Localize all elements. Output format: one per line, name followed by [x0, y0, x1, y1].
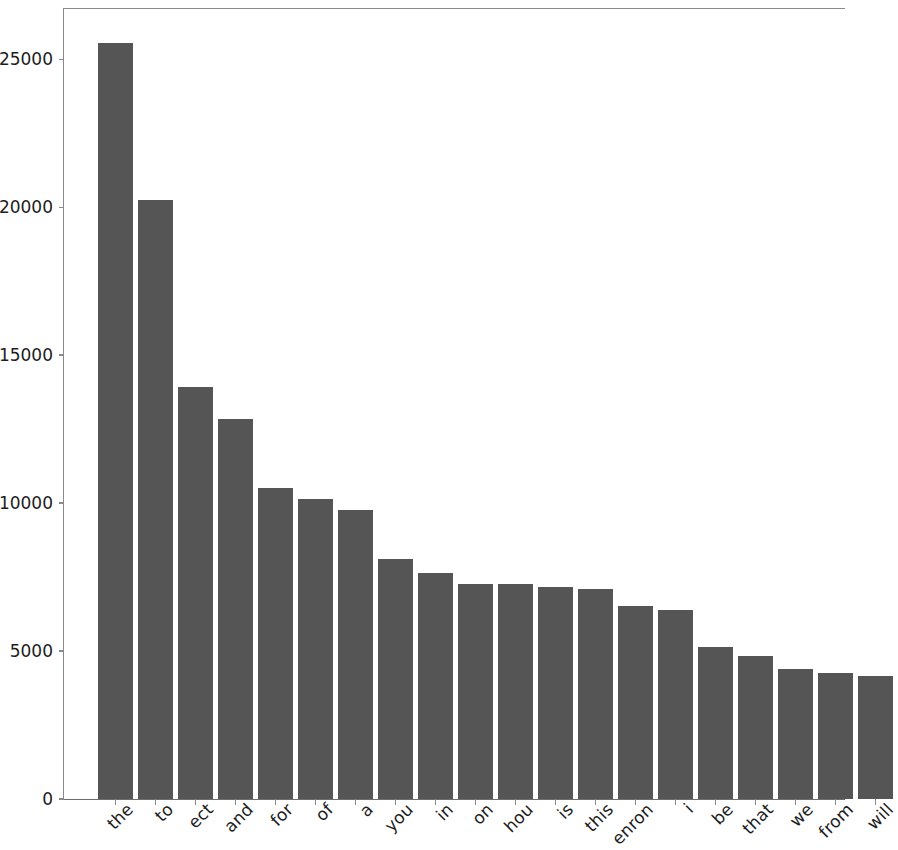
- x-axis-tick-mark: [555, 799, 556, 805]
- x-axis-tick-label: that: [731, 809, 770, 848]
- y-axis-tick-mark: [59, 354, 64, 355]
- x-axis-tick-label: is: [546, 809, 570, 833]
- x-axis-tick-label-text: that: [738, 799, 777, 838]
- x-axis-tick-mark: [275, 799, 276, 805]
- bar: [818, 673, 853, 799]
- bar: [98, 43, 133, 799]
- bar: [538, 587, 573, 799]
- bar: [378, 559, 413, 799]
- x-axis-tick-label: of: [304, 809, 330, 835]
- x-axis-tick-label-text: is: [553, 799, 577, 823]
- y-axis-tick-mark: [59, 502, 64, 503]
- x-axis-tick-label-text: we: [785, 799, 817, 831]
- y-axis-tick-label: 0: [0, 788, 53, 810]
- x-axis-tick-mark: [475, 799, 476, 805]
- x-axis-tick-label: and: [212, 809, 249, 846]
- bar: [658, 610, 693, 799]
- x-axis-tick-mark: [235, 799, 236, 805]
- x-axis-tick-mark: [315, 799, 316, 805]
- x-axis-tick-mark: [115, 799, 116, 805]
- x-axis-tick-label: you: [373, 809, 410, 846]
- y-axis-tick-mark: [59, 207, 64, 208]
- bar-series: [64, 9, 845, 799]
- x-axis-tick-mark: [515, 799, 516, 805]
- x-axis-tick-label-text: i: [679, 799, 697, 817]
- x-axis-tick-label-text: for: [266, 799, 297, 830]
- x-axis-tick-label: be: [700, 809, 729, 838]
- bar: [138, 200, 173, 799]
- x-axis-tick-label: the: [95, 809, 129, 843]
- x-axis-tick-mark: [395, 799, 396, 805]
- bar: [738, 656, 773, 799]
- bar: [698, 647, 733, 799]
- bar: [498, 584, 533, 799]
- x-axis-tick-label: in: [424, 809, 449, 834]
- bar: [418, 573, 453, 799]
- x-axis-tick-label-text: you: [380, 799, 417, 836]
- bar: [578, 589, 613, 799]
- bar: [258, 488, 293, 799]
- x-axis-tick-mark: [635, 799, 636, 805]
- x-axis-tick-label-text: will: [862, 799, 897, 834]
- x-axis-tick-label-text: on: [467, 799, 496, 828]
- x-axis-tick-mark: [195, 799, 196, 805]
- y-axis-tick-label: 15000: [0, 344, 53, 366]
- x-axis-tick-label: ect: [176, 809, 209, 842]
- bar: [218, 419, 253, 799]
- x-axis-tick-mark: [715, 799, 716, 805]
- x-axis-tick-label: to: [143, 809, 169, 835]
- x-axis-tick-label: on: [460, 809, 489, 838]
- x-axis-tick-mark: [435, 799, 436, 805]
- y-axis-tick-label: 25000: [0, 48, 53, 70]
- x-axis-tick-mark: [755, 799, 756, 805]
- bar: [618, 606, 653, 799]
- x-axis-tick-label: will: [855, 809, 890, 844]
- x-axis-tick-label-text: from: [814, 799, 857, 842]
- y-axis-tick-label: 5000: [0, 640, 53, 662]
- y-axis-tick-mark: [59, 650, 64, 651]
- y-axis-tick-label: 20000: [0, 196, 53, 218]
- x-axis-tick-mark: [355, 799, 356, 805]
- bar: [338, 510, 373, 799]
- x-axis-tick-mark: [795, 799, 796, 805]
- x-axis-tick-label: i: [672, 809, 690, 827]
- x-axis-tick-label: a: [348, 809, 370, 831]
- bar: [778, 669, 813, 799]
- x-axis-tick-label-text: a: [355, 799, 377, 821]
- bar: [298, 499, 333, 799]
- x-axis-tick-mark: [595, 799, 596, 805]
- x-axis-tick-label-text: ect: [183, 799, 216, 832]
- y-axis-tick-mark: [59, 798, 64, 799]
- x-axis-tick-mark: [875, 799, 876, 805]
- x-axis-tick-label-text: be: [707, 799, 736, 828]
- y-axis-tick-mark: [59, 59, 64, 60]
- x-axis-tick-label: we: [778, 809, 810, 841]
- x-axis-tick-label: for: [259, 809, 290, 840]
- x-axis-tick-label: hou: [492, 809, 529, 846]
- y-axis-tick-label: 10000: [0, 492, 53, 514]
- x-axis-tick-mark: [675, 799, 676, 805]
- x-axis-tick-label-text: the: [102, 799, 136, 833]
- bar: [178, 387, 213, 799]
- x-axis-tick-label-text: and: [220, 799, 257, 836]
- bar: [458, 584, 493, 799]
- bar: [858, 676, 893, 799]
- x-axis-tick-label-text: enron: [607, 799, 657, 849]
- plot-area: 0500010000150002000025000 thetoectandfor…: [63, 8, 845, 800]
- x-axis-tick-mark: [155, 799, 156, 805]
- x-axis-tick-mark: [835, 799, 836, 805]
- x-axis-tick-label-text: hou: [500, 799, 537, 836]
